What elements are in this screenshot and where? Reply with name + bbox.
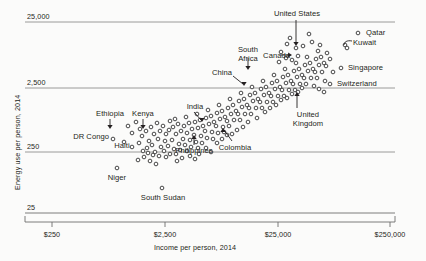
axis-lines [25, 213, 395, 222]
xtick-label-25000: $25,000 [255, 231, 301, 239]
annotation-switzerland: Switzerland [337, 80, 377, 89]
xtick-label-2500: $2,500 [143, 231, 187, 239]
annotation-philippines: Philippines [166, 147, 222, 156]
ytick-label-250: 250 [27, 143, 39, 151]
xtick-label-250: $250 [32, 231, 72, 239]
annotation-india: India [183, 103, 207, 112]
annotation-haiti: Haiti [107, 142, 137, 151]
axis-ticks [52, 222, 390, 227]
annotation-united-kingdom-line2: Kingdom [284, 120, 332, 129]
annotation-ethiopia: Ethiopia [89, 110, 131, 119]
annotation-kuwait: Kuwait [353, 39, 376, 48]
annotation-qatar: Qatar [366, 29, 385, 38]
annotation-dr-congo: DR Congo [57, 133, 109, 142]
annotation-united-states: United States [262, 10, 332, 19]
annotation-niger: Niger [100, 174, 134, 183]
scatter-chart-figure: 25,000 2,500 250 25 Energy use per perso… [0, 0, 426, 261]
annotation-kenya: Kenya [126, 110, 160, 119]
y-axis-title: Energy use per person, 2014 [14, 95, 22, 190]
annotation-china: China [206, 69, 238, 78]
ytick-label-25000: 25,000 [27, 13, 50, 21]
x-axis-title: Income per person, 2014 [125, 244, 265, 252]
ytick-label-2500: 2,500 [27, 79, 46, 87]
xtick-label-250000: $250,000 [364, 231, 416, 239]
ytick-label-25: 25 [27, 204, 35, 212]
annotation-south-sudan: South Sudan [132, 194, 194, 203]
annotation-singapore: Singapore [348, 64, 383, 73]
annotation-south-africa-line2: Africa [228, 55, 268, 64]
